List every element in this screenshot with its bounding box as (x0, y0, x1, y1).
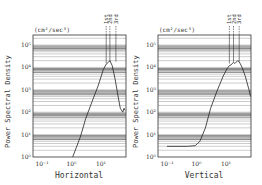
marker-label: 3rd (236, 14, 242, 24)
y-tick-label: 10¹ (146, 131, 156, 138)
y-axis-label: Power Spectral Density (4, 55, 12, 148)
y-tick-label: 10⁵ (21, 41, 32, 48)
y-tick-label: 10⁴ (21, 63, 32, 70)
y-ticks: 10⁰10¹10²10³10⁴10⁵ (146, 41, 157, 160)
x-axis-title: Horizontal (55, 171, 103, 180)
grid-lines (33, 38, 126, 150)
y-tick-label: 10² (21, 108, 32, 115)
x-ticks: 10⁻¹10⁰10¹ (35, 160, 106, 167)
y-tick-label: 10⁰ (21, 153, 32, 160)
y-ticks: 10⁰10¹10²10³10⁴10⁵ (21, 41, 32, 160)
x-tick-label: 10¹ (96, 160, 106, 167)
y-axis-label: Power Spectral Density (132, 55, 140, 148)
psd-curve (73, 61, 125, 157)
marker-label: 3rd (113, 14, 119, 24)
mode-markers: 1st2nd3rd (103, 14, 119, 63)
mode-markers: 1st2nd3rd (226, 14, 242, 63)
plot-horizontal: (cm²/sec³) Power Spectral Density 10⁰10¹… (4, 14, 126, 180)
y-unit: (cm²/sec³) (159, 26, 195, 33)
plot-frame (158, 35, 251, 157)
x-axis-title: Vertical (185, 171, 224, 180)
x-ticks: 10⁻¹10⁰10¹ (160, 160, 231, 167)
x-tick-label: 10⁻¹ (160, 160, 173, 167)
psd-curve (167, 61, 251, 147)
x-tick-label: 10⁻¹ (35, 160, 48, 167)
chart-canvas: (cm²/sec³) Power Spectral Density 10⁰10¹… (0, 0, 262, 185)
y-tick-label: 10⁰ (146, 153, 157, 160)
x-tick-label: 10⁰ (66, 160, 77, 167)
x-tick-label: 10¹ (221, 160, 231, 167)
y-tick-label: 10¹ (21, 131, 31, 138)
y-tick-label: 10⁴ (146, 63, 157, 70)
y-tick-label: 10³ (146, 86, 157, 93)
plot-vertical: (cm²/sec³) Power Spectral Density 10⁰10¹… (132, 14, 251, 180)
y-tick-label: 10³ (21, 86, 32, 93)
y-tick-label: 10⁵ (146, 41, 157, 48)
y-unit: (cm²/sec³) (34, 26, 70, 33)
y-tick-label: 10² (146, 108, 157, 115)
x-tick-label: 10⁰ (191, 160, 202, 167)
grid-lines (158, 38, 251, 150)
